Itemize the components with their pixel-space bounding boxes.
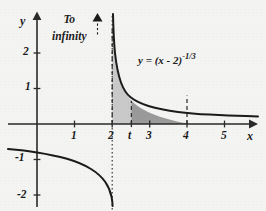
to-infinity-line-1: To: [52, 14, 87, 26]
y-tick-label-1: 1: [25, 81, 31, 93]
x-tick-label-2: 2: [108, 130, 114, 142]
shaded-area-group: [112, 29, 187, 125]
x-axis-arrowhead: [249, 120, 258, 129]
y-tick-label-neg1: -1: [15, 152, 25, 164]
x-tick-label-t: t: [128, 130, 131, 142]
to-infinity-line-2: infinity: [52, 31, 87, 43]
x-tick-label-1: 1: [71, 130, 77, 142]
equation-base: y = (x - 2): [138, 54, 182, 66]
equation-annotation: y = (x - 2)-1/3: [138, 52, 196, 66]
x-tick-label-4: 4: [183, 130, 189, 142]
y-axis-arrowhead: [33, 12, 42, 21]
x-tick-label-5: 5: [221, 130, 227, 142]
graph-canvas: [0, 0, 266, 211]
to-infinity-annotation: To infinity: [52, 14, 87, 42]
y-tick-label-2: 2: [23, 46, 29, 58]
x-tick-label-3: 3: [146, 130, 152, 142]
y-axis-label: y: [20, 15, 25, 27]
y-tick-label-neg2: -2: [17, 189, 27, 201]
up-arrow-icon: [93, 13, 103, 36]
equation-exponent: -1/3: [182, 51, 196, 61]
graph-figure: y x 2 1 -1 -2 1 2 t 3 4 5 y = (x - 2)-1/…: [0, 0, 266, 211]
x-axis-label: x: [247, 130, 253, 142]
